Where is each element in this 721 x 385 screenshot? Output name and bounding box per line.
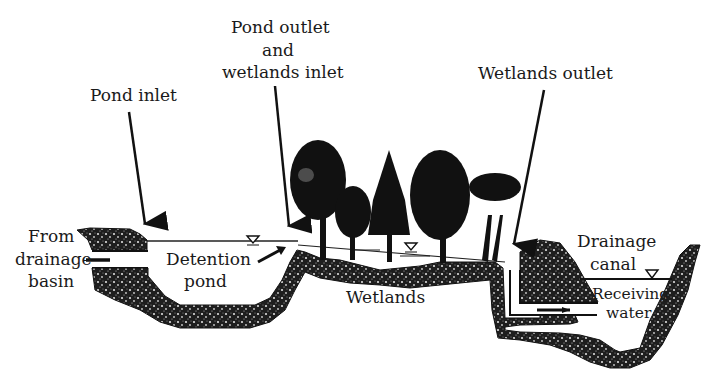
label-receiving-line2: water: [606, 303, 651, 323]
label-pond-outlet-line1: Pond outlet: [231, 16, 330, 38]
tree-icon: [368, 150, 410, 262]
tree-icon: [469, 173, 521, 262]
label-detention-line2: pond: [184, 270, 227, 292]
label-drainage-line1: Drainage: [577, 230, 656, 252]
inflow-pipe: [86, 251, 148, 268]
wetlands-cross-section-diagram: [0, 0, 721, 385]
pointer-arrow-icon: [514, 90, 544, 244]
flow-arrow-icon: [537, 307, 570, 313]
label-detention-line1: Detention: [166, 248, 251, 270]
tree-icon: [410, 150, 470, 263]
water-level-icon-wetlands: [405, 243, 417, 252]
label-from-line2: drainage: [15, 248, 92, 270]
pointer-arrow-icon: [129, 112, 145, 224]
pointer-arrow-icon: [275, 86, 289, 226]
left-bank-upper: [77, 228, 147, 250]
label-pond-outlet-line3: wetlands inlet: [222, 61, 344, 83]
water-level-icon-canal: [646, 270, 658, 278]
label-from-line3: basin: [28, 270, 74, 292]
label-wetlands-outlet: Wetlands outlet: [478, 62, 613, 84]
label-drainage-line2: canal: [590, 253, 636, 275]
label-receiving-line1: Receiving: [592, 284, 669, 304]
label-wetlands: Wetlands: [346, 286, 425, 308]
label-pond-inlet: Pond inlet: [90, 84, 177, 106]
label-from-line1: From: [28, 225, 74, 247]
flow-arrow-icon: [258, 246, 286, 262]
label-pond-outlet-line2: and: [262, 39, 294, 61]
